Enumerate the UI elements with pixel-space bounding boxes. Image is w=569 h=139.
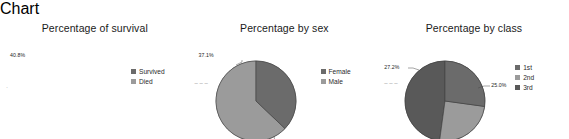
- pie-area-sex: 37.1% 62.9%: [190, 48, 322, 139]
- pie-svg-survival-base: [0, 48, 132, 139]
- legend-item-3rd[interactable]: 3rd: [515, 84, 534, 91]
- chart-title-sex: Percentage by sex: [190, 22, 380, 34]
- leader-line-survived: [48, 60, 54, 64]
- leader-line-died: [78, 138, 84, 139]
- legend-swatch-icon: [131, 69, 136, 74]
- pct-label-male: 62.9%: [282, 138, 297, 139]
- legend-item-died[interactable]: Died: [131, 78, 165, 85]
- legend-swatch-icon: [131, 79, 136, 84]
- legend-label-survived: Survived: [139, 68, 165, 75]
- pct-label-survived: 40.8%: [10, 52, 25, 58]
- pie-slice-2nd[interactable]: [440, 101, 485, 139]
- chart-title-survival: Percentage of survival: [0, 22, 190, 34]
- legend-label-female: Female: [329, 68, 351, 75]
- legend-sex: Female Male: [321, 68, 351, 85]
- chart-panel-survival: Percentage of survival · 40.8% 59.2% Sur…: [0, 18, 190, 139]
- pie-slice-survived-wedge[interactable]: [26, 61, 66, 106]
- pct-label-female: 37.1%: [199, 52, 214, 58]
- pct-label-1st: 27.2%: [384, 64, 399, 70]
- legend-label-died: Died: [139, 78, 153, 85]
- legend-item-2nd[interactable]: 2nd: [515, 74, 534, 81]
- chart-panel-sex: Percentage by sex – – – 37.1% 62.9% Fema…: [190, 18, 380, 139]
- pie-area-survival: 40.8% 59.2%: [0, 48, 132, 139]
- legend-swatch-icon: [321, 69, 326, 74]
- pie-slice-survived[interactable]: [66, 61, 106, 135]
- legend-survival: Survived Died: [131, 68, 165, 85]
- chart-title-class: Percentage by class: [379, 22, 569, 34]
- legend-swatch-icon: [515, 75, 520, 80]
- legend-label-male: Male: [329, 78, 343, 85]
- pie-area-class: 27.2% 25.0% 47.9%: [379, 48, 511, 139]
- legend-swatch-icon: [515, 85, 520, 90]
- legend-swatch-icon: [321, 79, 326, 84]
- legend-item-male[interactable]: Male: [321, 78, 351, 85]
- legend-label-3rd: 3rd: [523, 84, 533, 91]
- legend-class: 1st 2nd 3rd: [515, 64, 534, 91]
- pct-label-2nd: 25.0%: [491, 82, 506, 88]
- legend-label-1st: 1st: [523, 64, 532, 71]
- legend-item-survived[interactable]: Survived: [131, 68, 165, 75]
- legend-item-1st[interactable]: 1st: [515, 64, 534, 71]
- pie-svg-class: [379, 48, 511, 139]
- chart-panel-class: Percentage by class – – – 27.2% 25.0% 47…: [379, 18, 569, 139]
- legend-item-female[interactable]: Female: [321, 68, 351, 75]
- legend-swatch-icon: [515, 65, 520, 70]
- leader-line-1st: [408, 68, 419, 70]
- pie-base-circle: [26, 61, 106, 139]
- pie-slice-3rd[interactable]: [405, 61, 445, 139]
- legend-label-2nd: 2nd: [523, 74, 534, 81]
- pie-svg-sex: [190, 48, 322, 139]
- pie-slice-died[interactable]: [26, 61, 88, 139]
- pie-slice-1st[interactable]: [445, 61, 485, 106]
- pie-chart-figure: Percentage of survival · 40.8% 59.2% Sur…: [0, 18, 569, 139]
